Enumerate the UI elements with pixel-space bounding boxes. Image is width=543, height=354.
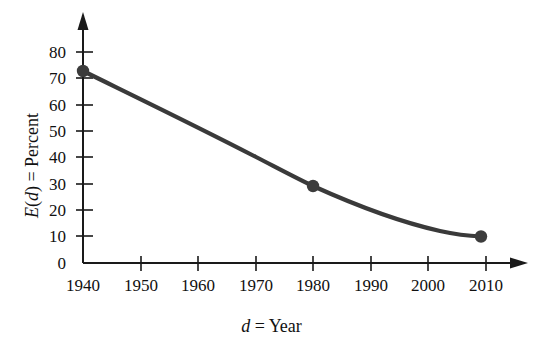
x-axis xyxy=(83,258,528,269)
x-axis-title: d = Year xyxy=(0,316,543,337)
y-tick-marks xyxy=(76,52,93,236)
chart-plot-area xyxy=(0,0,543,354)
data-point-2009 xyxy=(475,230,487,242)
y-axis-title-function: E xyxy=(22,207,42,218)
chart-figure: 80 70 60 50 40 30 20 10 0 1940 1950 1960… xyxy=(0,0,543,354)
x-axis-title-rest: = Year xyxy=(255,316,302,336)
x-tick-label-1950: 1950 xyxy=(124,277,158,294)
x-tick-label-2000: 2000 xyxy=(411,277,445,294)
y-axis-title-variable: d xyxy=(22,192,42,201)
x-tick-label-1960: 1960 xyxy=(181,277,215,294)
x-axis-title-variable: d xyxy=(241,316,250,336)
y-axis-title-open-paren: ( xyxy=(22,201,42,207)
data-curve xyxy=(83,71,481,237)
y-axis-title: E(d) = Percent xyxy=(22,66,43,266)
x-tick-label-1970: 1970 xyxy=(239,277,273,294)
data-point-1980 xyxy=(307,180,319,192)
x-tick-label-2010: 2010 xyxy=(469,277,503,294)
x-tick-label-1990: 1990 xyxy=(354,277,388,294)
x-tick-label-1980: 1980 xyxy=(296,277,330,294)
data-point-1940 xyxy=(77,65,89,77)
y-axis-title-suffix: ) = Percent xyxy=(22,113,42,192)
x-tick-label-1940: 1940 xyxy=(66,277,100,294)
y-axis xyxy=(78,12,89,263)
data-point-markers xyxy=(77,65,487,243)
y-tick-label-80: 80 xyxy=(22,44,66,61)
